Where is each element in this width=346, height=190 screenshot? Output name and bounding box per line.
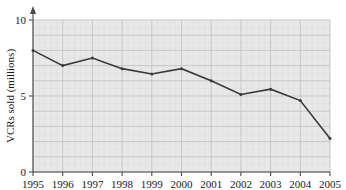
- x-tick-label: 2000: [171, 178, 194, 190]
- data-point-marker: [61, 64, 64, 67]
- y-tick-label: 5: [21, 90, 27, 102]
- data-point-marker: [32, 49, 35, 52]
- data-point-marker: [210, 79, 213, 82]
- data-point-marker: [150, 72, 153, 75]
- y-axis-title: VCRs sold (millions): [4, 49, 17, 143]
- x-tick-label: 1997: [81, 178, 104, 190]
- x-tick-label: 1999: [141, 178, 164, 190]
- vcr-sales-line-chart: 0510 19951996199719981999200020012002200…: [0, 0, 346, 190]
- data-point-marker: [329, 137, 332, 140]
- x-tick-label: 2003: [260, 178, 283, 190]
- data-point-marker: [121, 67, 124, 70]
- x-tick-label: 2005: [319, 178, 342, 190]
- x-tick-label: 1995: [22, 178, 45, 190]
- data-point-marker: [180, 67, 183, 70]
- x-tick-label: 2002: [230, 178, 252, 190]
- y-tick-label: 10: [15, 14, 27, 26]
- x-tick-label: 1996: [52, 178, 75, 190]
- x-tick-label: 1998: [111, 178, 134, 190]
- data-point-marker: [239, 93, 242, 96]
- data-point-marker: [91, 57, 94, 60]
- y-tick-label: 0: [21, 166, 27, 178]
- x-tick-label: 2001: [200, 178, 222, 190]
- chart-canvas: 0510 19951996199719981999200020012002200…: [0, 0, 346, 190]
- data-point-marker: [269, 88, 272, 91]
- x-tick-label: 2004: [289, 178, 312, 190]
- data-point-marker: [299, 99, 302, 102]
